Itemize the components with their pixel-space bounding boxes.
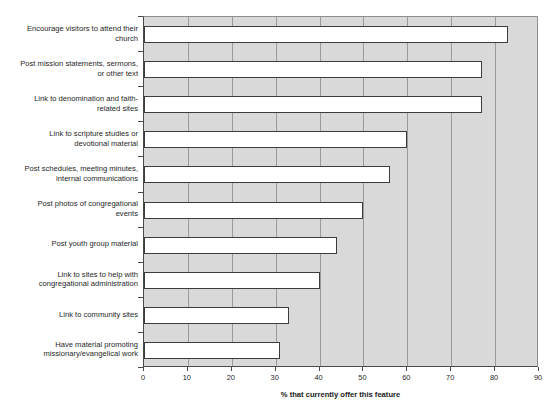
category-label-line: Link to sites to help with xyxy=(57,270,138,279)
chart-title xyxy=(0,0,558,5)
bar xyxy=(144,131,407,148)
category-label: Link to denomination and faith-related s… xyxy=(10,94,138,113)
y-axis-tick xyxy=(138,16,143,17)
plot-area xyxy=(143,16,538,367)
y-axis-tick xyxy=(138,121,143,122)
x-axis-tick xyxy=(319,367,320,371)
x-axis-tick xyxy=(275,367,276,371)
bar xyxy=(144,202,363,219)
x-axis-tick-label: 50 xyxy=(347,373,377,382)
x-axis-tick xyxy=(450,367,451,371)
y-axis-tick xyxy=(138,51,143,52)
x-axis-tick-label: 60 xyxy=(391,373,421,382)
x-axis-tick xyxy=(362,367,363,371)
category-label: Post photos of congregationalevents xyxy=(10,199,138,218)
category-label: Post mission statements, sermons,or othe… xyxy=(10,59,138,78)
x-axis-tick xyxy=(538,367,539,371)
category-label-line: Post mission statements, sermons, xyxy=(20,59,138,68)
bar-chart: % that currently offer this feature Enco… xyxy=(0,0,558,410)
category-label: Post youth group material xyxy=(10,239,138,249)
category-label-line: internal communications xyxy=(56,174,138,183)
category-label-line: Link to scripture studies or xyxy=(49,129,138,138)
category-label-line: missionary/evangelical work xyxy=(43,349,138,358)
bar xyxy=(144,237,337,254)
x-axis-tick-label: 30 xyxy=(260,373,290,382)
category-label-line: Post schedules, meeting minutes, xyxy=(24,164,138,173)
bar xyxy=(144,307,289,324)
category-label-line: congregational administration xyxy=(39,279,138,288)
category-label-line: Link to denomination and faith- xyxy=(34,94,138,103)
category-label-line: related sites xyxy=(97,104,138,113)
category-label: Post schedules, meeting minutes,internal… xyxy=(10,164,138,183)
y-axis-tick xyxy=(138,86,143,87)
category-label: Link to scripture studies ordevotional m… xyxy=(10,129,138,148)
x-axis-tick xyxy=(187,367,188,371)
x-axis-tick-label: 0 xyxy=(128,373,158,382)
y-axis-tick xyxy=(138,297,143,298)
x-axis-tick-label: 20 xyxy=(216,373,246,382)
category-label-line: or other text xyxy=(97,69,138,78)
x-axis-tick-label: 80 xyxy=(479,373,509,382)
y-axis-tick xyxy=(138,227,143,228)
x-axis-tick-label: 70 xyxy=(435,373,465,382)
category-label-line: Link to community sites xyxy=(59,310,138,319)
category-label: Link to sites to help withcongregational… xyxy=(10,270,138,289)
x-axis-tick xyxy=(231,367,232,371)
bar xyxy=(144,26,508,43)
category-label: Encourage visitors to attend theirchurch xyxy=(10,24,138,43)
x-axis-tick-label: 40 xyxy=(304,373,334,382)
y-axis-tick xyxy=(138,192,143,193)
category-label: Have material promotingmissionary/evange… xyxy=(10,340,138,359)
bar xyxy=(144,342,280,359)
bar xyxy=(144,96,482,113)
gridline-80 xyxy=(495,17,496,366)
x-axis-tick-label: 90 xyxy=(523,373,553,382)
bar xyxy=(144,272,320,289)
category-label-line: Have material promoting xyxy=(55,340,138,349)
category-label-line: Post photos of congregational xyxy=(38,199,138,208)
x-axis-tick xyxy=(143,367,144,371)
category-label-line: devotional material xyxy=(74,139,138,148)
category-label-line: Post youth group material xyxy=(51,239,138,248)
category-label-line: church xyxy=(115,34,138,43)
y-axis-tick xyxy=(138,332,143,333)
bar xyxy=(144,166,390,183)
y-axis-tick xyxy=(138,262,143,263)
category-label-line: events xyxy=(116,209,138,218)
x-axis-tick-label: 10 xyxy=(172,373,202,382)
x-axis-title: % that currently offer this feature xyxy=(143,390,538,399)
category-label: Link to community sites xyxy=(10,310,138,320)
bar xyxy=(144,61,482,78)
x-axis-tick xyxy=(494,367,495,371)
category-label-line: Encourage visitors to attend their xyxy=(27,24,138,33)
y-axis-tick xyxy=(138,156,143,157)
x-axis-tick xyxy=(406,367,407,371)
